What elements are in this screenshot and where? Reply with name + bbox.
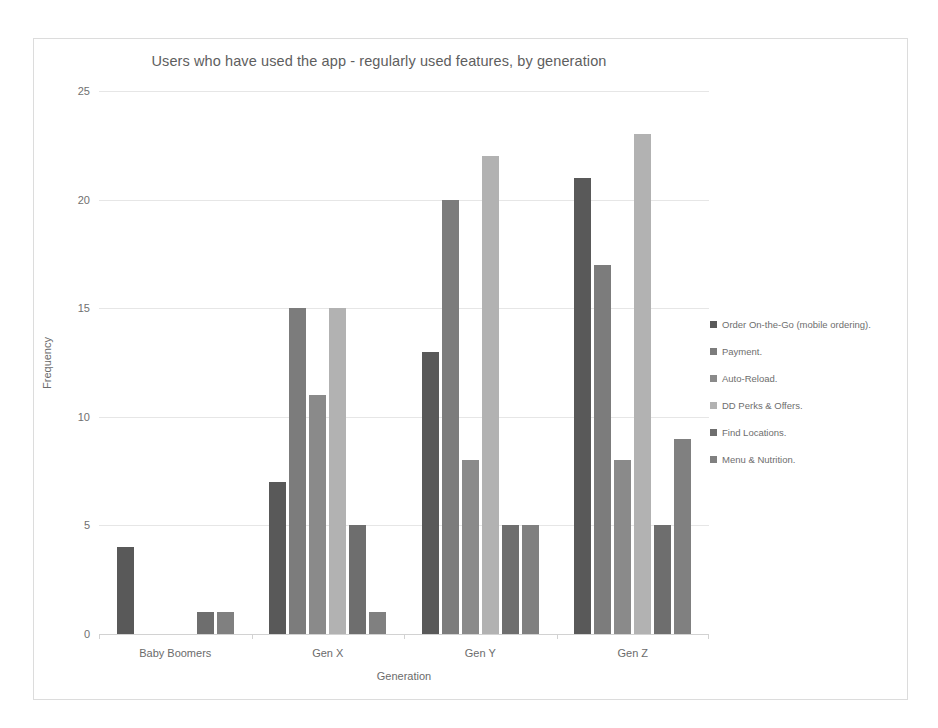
bar	[522, 525, 539, 634]
x-axis-tick-label: Gen X	[312, 647, 343, 659]
legend-label: Order On-the-Go (mobile ordering).	[722, 319, 871, 330]
legend-item[interactable]: Auto-Reload.	[710, 365, 910, 392]
legend-swatch-icon	[710, 321, 717, 328]
bar	[217, 612, 234, 634]
bar	[634, 134, 651, 634]
bar-group	[99, 91, 252, 634]
bar	[309, 395, 326, 634]
bar	[594, 265, 611, 634]
bar	[654, 525, 671, 634]
y-axis-tick-label: 15	[78, 302, 90, 314]
plot-area: Frequency 0510152025 Baby BoomersGen XGe…	[99, 91, 709, 634]
bar	[462, 460, 479, 634]
bar-group	[557, 91, 710, 634]
legend-label: Menu & Nutrition.	[722, 454, 795, 465]
legend-item[interactable]: Find Locations.	[710, 419, 910, 446]
bar	[574, 178, 591, 634]
x-axis-tick-mark	[99, 634, 100, 639]
y-axis-tick-label: 10	[78, 411, 90, 423]
y-axis-tick-label: 5	[84, 519, 90, 531]
x-axis-title: Generation	[377, 670, 431, 682]
x-axis-tick-mark	[708, 634, 709, 639]
legend-swatch-icon	[710, 348, 717, 355]
legend-swatch-icon	[710, 456, 717, 463]
bar	[269, 482, 286, 634]
y-axis-tick-label: 0	[84, 628, 90, 640]
y-axis-title: Frequency	[41, 337, 53, 389]
legend-label: Auto-Reload.	[722, 373, 777, 384]
bar	[674, 439, 691, 634]
legend-label: DD Perks & Offers.	[722, 400, 803, 411]
bar-group	[252, 91, 405, 634]
legend-swatch-icon	[710, 402, 717, 409]
x-axis-tick-mark	[557, 634, 558, 639]
legend-swatch-icon	[710, 429, 717, 436]
x-axis-tick-label: Gen Y	[465, 647, 496, 659]
bar	[422, 352, 439, 634]
bar-group	[404, 91, 557, 634]
bar	[614, 460, 631, 634]
legend-item[interactable]: DD Perks & Offers.	[710, 392, 910, 419]
bar	[117, 547, 134, 634]
legend-item[interactable]: Order On-the-Go (mobile ordering).	[710, 311, 910, 338]
bar	[329, 308, 346, 634]
y-axis-tick-label: 20	[78, 194, 90, 206]
chart-legend: Order On-the-Go (mobile ordering).Paymen…	[710, 311, 910, 473]
chart-title: Users who have used the app - regularly …	[34, 53, 724, 69]
y-axis-tick-label: 25	[78, 85, 90, 97]
bar	[369, 612, 386, 634]
bar	[197, 612, 214, 634]
legend-label: Find Locations.	[722, 427, 786, 438]
chart-frame: Users who have used the app - regularly …	[33, 38, 908, 700]
x-axis-tick-mark	[404, 634, 405, 639]
legend-label: Payment.	[722, 346, 762, 357]
x-axis-tick-label: Baby Boomers	[139, 647, 211, 659]
bar	[442, 200, 459, 634]
legend-swatch-icon	[710, 375, 717, 382]
bar	[289, 308, 306, 634]
bar	[349, 525, 366, 634]
legend-item[interactable]: Menu & Nutrition.	[710, 446, 910, 473]
legend-item[interactable]: Payment.	[710, 338, 910, 365]
x-axis-tick-label: Gen Z	[617, 647, 648, 659]
x-axis-tick-mark	[252, 634, 253, 639]
bar	[502, 525, 519, 634]
bar	[482, 156, 499, 634]
